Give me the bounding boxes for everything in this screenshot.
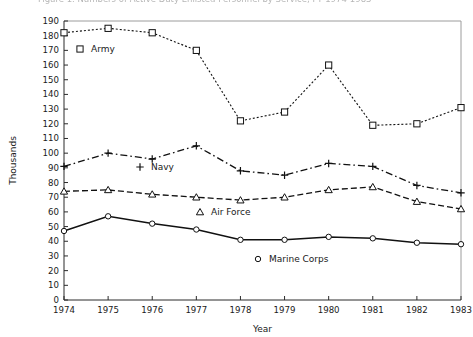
plot-frame	[64, 21, 461, 300]
y-tick-label: 160	[43, 60, 59, 70]
x-tick-label: 1982	[406, 305, 428, 315]
data-point-marine-corps-1979	[282, 237, 287, 242]
series-line-navy	[64, 146, 461, 193]
y-tick-label: 50	[48, 222, 59, 232]
data-point-army-1978	[237, 118, 243, 124]
legend-label: Air Force	[211, 207, 251, 217]
data-point-army-1981	[370, 122, 376, 128]
y-tick-label: 30	[48, 251, 59, 261]
y-tick-label: 100	[43, 148, 59, 158]
legend-label: Navy	[151, 162, 175, 172]
data-point-marine-corps-1975	[105, 214, 110, 219]
data-point-navy-1977	[193, 142, 200, 149]
legend-entry-air-force: Air Force	[196, 207, 251, 217]
x-tick-label: 1980	[318, 305, 340, 315]
data-point-marine-corps-1980	[326, 234, 331, 239]
legend-entry-marine-corps: Marine Corps	[255, 254, 328, 264]
x-tick-label: 1979	[274, 305, 296, 315]
y-tick-label: 80	[48, 178, 59, 188]
y-tick-label: 0	[54, 295, 59, 305]
data-point-navy-1981	[369, 163, 376, 170]
y-tick-label: 180	[43, 31, 59, 41]
series-line-air-force	[64, 187, 461, 209]
y-tick-label: 20	[48, 266, 59, 276]
legend-marker-square	[77, 46, 83, 52]
legend-marker-triangle	[196, 209, 203, 215]
markers-layer	[60, 25, 464, 247]
legend-label: Marine Corps	[269, 254, 329, 264]
data-point-navy-1975	[104, 149, 111, 156]
legend-entry-army: Army	[77, 44, 116, 54]
series-line-marine-corps	[64, 216, 461, 244]
y-tick-label: 170	[43, 45, 59, 55]
data-point-navy-1983	[457, 189, 464, 196]
data-point-air-force-1980	[325, 186, 332, 192]
data-point-marine-corps-1983	[458, 242, 463, 247]
data-point-navy-1980	[325, 160, 332, 167]
x-axis-ticks: 1974197519761977197819791980198119821983	[53, 296, 472, 315]
data-point-marine-corps-1981	[370, 236, 375, 241]
data-point-army-1974	[61, 30, 67, 36]
x-tick-label: 1983	[450, 305, 472, 315]
legend-marker-circle	[255, 256, 260, 261]
legend-entry-navy: Navy	[136, 162, 174, 172]
y-tick-label: 70	[48, 192, 59, 202]
line-chart: 0102030405060708090100110120130140150160…	[0, 0, 473, 337]
data-point-marine-corps-1976	[150, 221, 155, 226]
y-tick-label: 40	[48, 236, 59, 246]
y-tick-label: 60	[48, 207, 59, 217]
data-point-marine-corps-1977	[194, 227, 199, 232]
x-tick-label: 1975	[97, 305, 119, 315]
x-tick-label: 1978	[230, 305, 252, 315]
data-point-marine-corps-1978	[238, 237, 243, 242]
data-point-navy-1979	[281, 171, 288, 178]
x-tick-label: 1981	[362, 305, 384, 315]
data-point-marine-corps-1982	[414, 240, 419, 245]
data-point-navy-1978	[237, 167, 244, 174]
y-tick-label: 150	[43, 75, 59, 85]
data-point-marine-corps-1974	[61, 228, 66, 233]
data-point-army-1977	[193, 47, 199, 53]
x-axis-title: Year	[252, 324, 272, 334]
figure-root: Figure 1. Numbers of Active Duty Enliste…	[0, 0, 473, 337]
y-tick-label: 140	[43, 89, 59, 99]
data-point-army-1975	[105, 25, 111, 31]
y-tick-label: 130	[43, 104, 59, 114]
data-point-army-1980	[326, 62, 332, 68]
chart-canvas: 0102030405060708090100110120130140150160…	[0, 0, 473, 337]
data-point-navy-1982	[413, 182, 420, 189]
data-point-navy-1974	[60, 163, 67, 170]
data-point-army-1983	[458, 105, 464, 111]
legend-label: Army	[91, 44, 115, 54]
x-tick-label: 1977	[185, 305, 207, 315]
y-tick-label: 10	[48, 280, 59, 290]
data-point-army-1979	[281, 109, 287, 115]
series-layer	[64, 28, 461, 244]
data-point-army-1976	[149, 30, 155, 36]
legend-marker-plus	[136, 163, 143, 170]
x-tick-label: 1974	[53, 305, 75, 315]
data-point-army-1982	[414, 121, 420, 127]
series-line-army	[64, 28, 461, 125]
y-tick-label: 110	[43, 133, 59, 143]
x-tick-label: 1976	[141, 305, 163, 315]
y-tick-label: 120	[43, 119, 59, 129]
y-tick-label: 90	[48, 163, 59, 173]
y-axis-title: Thousands	[8, 136, 18, 186]
y-tick-label: 190	[43, 16, 59, 26]
